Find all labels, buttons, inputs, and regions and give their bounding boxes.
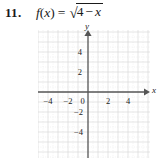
y-axis — [84, 30, 91, 158]
y-axis-name: y — [85, 21, 89, 31]
x-tick-label--2: −2 — [63, 96, 72, 106]
radicand-operator: − — [83, 4, 95, 19]
coordinate-grid-svg: −4 −2 0 2 4 4 2 −2 −4 y — [38, 30, 150, 158]
y-tick-label--4: −4 — [74, 127, 84, 137]
x-tick-label-2: 2 — [106, 96, 110, 106]
x-tick-label--4: −4 — [43, 96, 53, 106]
radicand: 4−x — [76, 3, 103, 20]
radicand-second-term: x — [95, 4, 101, 19]
y-tick-label-2: 2 — [78, 67, 82, 77]
minor-gridlines — [38, 30, 150, 158]
x-tick-label-0: 0 — [80, 96, 84, 106]
x-axis-name: x — [152, 85, 156, 95]
x-tick-label-4: 4 — [126, 96, 131, 106]
radical-expression: √4−x — [68, 4, 103, 21]
problem-statement-row: 11. f(x)=√4−x — [0, 0, 166, 28]
equals-sign: = — [55, 5, 69, 20]
coordinate-grid-figure: −4 −2 0 2 4 4 2 −2 −4 y y x — [38, 30, 150, 158]
y-tick-label--2: −2 — [74, 107, 83, 117]
problem-number: 11. — [5, 5, 21, 21]
problem-expression: f(x)=√4−x — [36, 4, 103, 21]
x-axis — [38, 88, 150, 95]
